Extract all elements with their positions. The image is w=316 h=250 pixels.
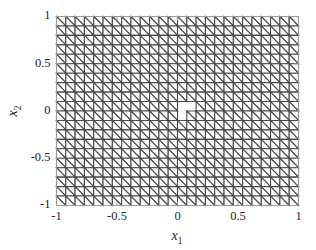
x-tick-label: 1: [295, 209, 301, 223]
mesh-plot-svg: -1-0.500.51 -1-0.500.51 x1 x2: [0, 0, 316, 250]
y-tick-label: 1: [44, 8, 50, 22]
figure-container: -1-0.500.51 -1-0.500.51 x1 x2: [0, 0, 316, 250]
y-tick-label: 0.5: [35, 56, 51, 70]
y-tick-label: -1: [40, 197, 50, 211]
y-tick-label: 0: [44, 103, 50, 117]
x-tick-label: -0.5: [107, 209, 127, 223]
x-tick-label: 0.5: [230, 209, 246, 223]
x-tick-label: -1: [51, 209, 61, 223]
triangular-mesh: [57, 17, 299, 206]
y-tick-label: -0.5: [31, 150, 51, 164]
x-tick-label: 0: [174, 209, 180, 223]
